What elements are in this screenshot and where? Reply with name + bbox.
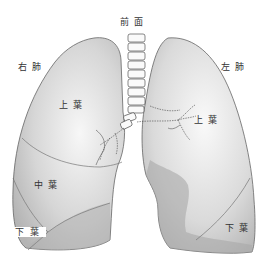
right-upper-lobe-label: 上葉 [59, 100, 87, 110]
right-lower-lobe-label: 下葉 [14, 227, 46, 237]
right-middle-lobe-label: 中葉 [34, 180, 62, 190]
right-lung-label: 右肺 [18, 62, 46, 72]
left-lung-label: 左肺 [221, 62, 249, 72]
left-upper-lobe-label: 上葉 [194, 115, 222, 125]
anterior-view-title: 前面 [120, 17, 148, 27]
left-lower-lobe-label: 下葉 [225, 223, 253, 233]
